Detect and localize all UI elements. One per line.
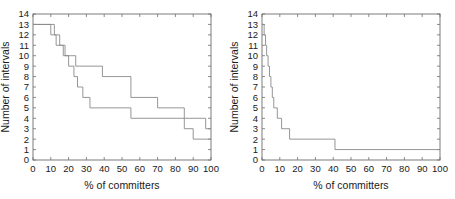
left-plot-area: 0102030405060708090100012345678910111213…: [0, 8, 219, 191]
y-tick-label: 0: [253, 154, 258, 165]
x-tick-label: 60: [135, 163, 146, 174]
y-tick-label: 13: [18, 19, 29, 30]
x-tick-label: 30: [81, 163, 92, 174]
data-series-line: [262, 24, 440, 149]
x-tick-label: 50: [117, 163, 128, 174]
y-tick-label: 3: [24, 123, 29, 134]
x-tick-label: 20: [63, 163, 74, 174]
y-tick-label: 7: [253, 81, 258, 92]
y-tick-label: 6: [24, 92, 29, 103]
y-tick-label: 11: [19, 40, 29, 51]
x-tick-label: 70: [152, 163, 163, 174]
y-tick-label: 11: [248, 40, 258, 51]
left-chart-svg: 0102030405060708090100012345678910111213…: [0, 0, 227, 199]
x-tick-label: 80: [170, 163, 181, 174]
y-tick-label: 4: [253, 113, 258, 124]
x-axis-title: % of committers: [84, 179, 159, 191]
x-tick-label: 10: [46, 163, 57, 174]
y-tick-label: 12: [247, 29, 258, 40]
y-tick-label: 14: [18, 8, 29, 19]
x-tick-label: 90: [417, 163, 428, 174]
y-tick-label: 2: [24, 134, 29, 145]
y-tick-label: 9: [253, 61, 258, 72]
x-tick-label: 30: [310, 163, 321, 174]
x-tick-label: 20: [292, 163, 303, 174]
y-tick-label: 10: [247, 50, 258, 61]
y-tick-label: 8: [24, 71, 29, 82]
y-tick-label: 6: [253, 92, 258, 103]
y-tick-label: 1: [253, 144, 258, 155]
chart-panel-left: 0102030405060708090100012345678910111213…: [0, 0, 227, 199]
y-tick-label: 13: [247, 19, 258, 30]
x-tick-label: 90: [188, 163, 199, 174]
y-tick-label: 9: [24, 61, 29, 72]
y-tick-label: 10: [18, 50, 29, 61]
x-axis-title: % of committers: [313, 179, 388, 191]
x-tick-label: 100: [203, 163, 219, 174]
y-tick-label: 3: [253, 123, 258, 134]
y-axis-title: Number of intervals: [228, 41, 240, 132]
x-tick-label: 0: [30, 163, 35, 174]
y-axis-title: Number of intervals: [0, 41, 11, 132]
x-tick-label: 10: [275, 163, 286, 174]
y-tick-label: 5: [24, 102, 29, 113]
y-tick-label: 7: [24, 81, 29, 92]
dual-chart-figure: 0102030405060708090100012345678910111213…: [0, 0, 455, 199]
y-tick-label: 1: [24, 144, 29, 155]
chart-panel-right: 0102030405060708090100012345678910111213…: [227, 0, 454, 199]
right-plot-area: 0102030405060708090100012345678910111213…: [228, 8, 448, 191]
y-tick-label: 4: [24, 113, 29, 124]
x-tick-label: 60: [364, 163, 375, 174]
y-tick-label: 8: [253, 71, 258, 82]
x-tick-label: 0: [259, 163, 264, 174]
x-tick-label: 70: [381, 163, 392, 174]
y-tick-label: 14: [247, 8, 258, 19]
x-tick-label: 80: [399, 163, 410, 174]
x-tick-label: 40: [328, 163, 339, 174]
right-chart-svg: 0102030405060708090100012345678910111213…: [227, 0, 455, 199]
y-tick-label: 5: [253, 102, 258, 113]
y-tick-label: 0: [24, 154, 29, 165]
y-tick-label: 2: [253, 134, 258, 145]
data-series-line: [33, 24, 211, 128]
x-tick-label: 40: [99, 163, 110, 174]
x-tick-label: 100: [432, 163, 448, 174]
y-tick-label: 12: [18, 29, 29, 40]
x-tick-label: 50: [346, 163, 357, 174]
